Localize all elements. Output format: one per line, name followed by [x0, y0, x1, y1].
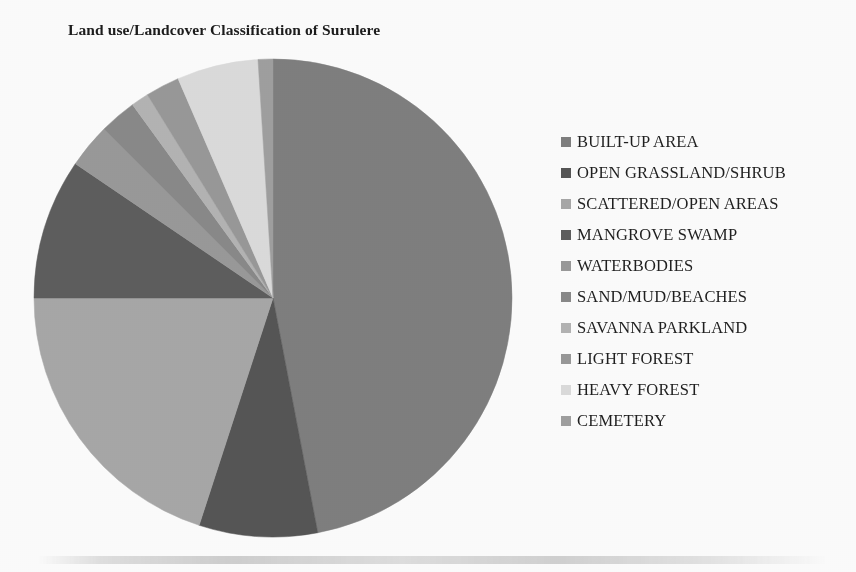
legend-item-label: SAVANNA PARKLAND	[577, 318, 747, 338]
pie-chart-svg	[33, 58, 513, 538]
legend-swatch-icon	[561, 137, 571, 147]
legend-swatch-icon	[561, 261, 571, 271]
legend-swatch-icon	[561, 199, 571, 209]
legend-item-label: WATERBODIES	[577, 256, 693, 276]
legend-item[interactable]: BUILT-UP AREA	[561, 126, 853, 157]
legend-item-label: SCATTERED/OPEN AREAS	[577, 194, 778, 214]
legend-item-label: MANGROVE SWAMP	[577, 225, 737, 245]
legend-swatch-icon	[561, 385, 571, 395]
chart-page: Land use/Landcover Classification of Sur…	[0, 0, 856, 572]
legend-item-label: OPEN GRASSLAND/SHRUB	[577, 163, 786, 183]
chart-legend: BUILT-UP AREAOPEN GRASSLAND/SHRUBSCATTER…	[561, 126, 853, 436]
legend-item-label: HEAVY FOREST	[577, 380, 699, 400]
legend-item[interactable]: MANGROVE SWAMP	[561, 219, 853, 250]
legend-item-label: LIGHT FOREST	[577, 349, 694, 369]
legend-item[interactable]: CEMETERY	[561, 405, 853, 436]
legend-item[interactable]: LIGHT FOREST	[561, 343, 853, 374]
legend-item-label: SAND/MUD/BEACHES	[577, 287, 747, 307]
legend-item[interactable]: SCATTERED/OPEN AREAS	[561, 188, 853, 219]
pie-slice	[273, 59, 512, 533]
legend-item[interactable]: OPEN GRASSLAND/SHRUB	[561, 157, 853, 188]
legend-item-label: BUILT-UP AREA	[577, 132, 699, 152]
legend-swatch-icon	[561, 323, 571, 333]
legend-item[interactable]: SAND/MUD/BEACHES	[561, 281, 853, 312]
legend-swatch-icon	[561, 416, 571, 426]
page-title: Land use/Landcover Classification of Sur…	[68, 21, 380, 39]
legend-item[interactable]: WATERBODIES	[561, 250, 853, 281]
legend-swatch-icon	[561, 168, 571, 178]
legend-swatch-icon	[561, 292, 571, 302]
legend-item[interactable]: SAVANNA PARKLAND	[561, 312, 853, 343]
scan-artifact-line	[38, 556, 828, 564]
legend-swatch-icon	[561, 354, 571, 364]
legend-item-label: CEMETERY	[577, 411, 666, 431]
pie-chart	[33, 58, 513, 538]
legend-item[interactable]: HEAVY FOREST	[561, 374, 853, 405]
pie-slice-group	[34, 59, 512, 537]
legend-swatch-icon	[561, 230, 571, 240]
